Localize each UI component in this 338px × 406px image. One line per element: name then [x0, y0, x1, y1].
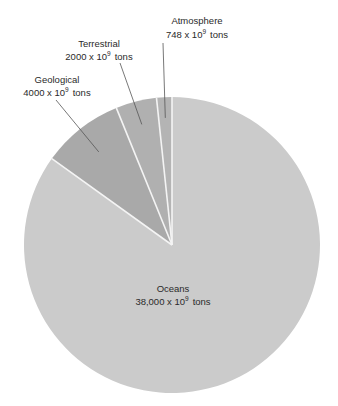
- label-atmosphere: Atmosphere 748 x 109tons: [166, 15, 228, 40]
- label-terrestrial-name: Terrestrial: [78, 38, 120, 49]
- label-geological-value: 4000 x 109tons: [23, 86, 91, 98]
- label-oceans-value: 38,000 x 109tons: [135, 295, 210, 307]
- label-geological: Geological 4000 x 109tons: [23, 74, 91, 98]
- label-terrestrial: Terrestrial 2000 x 109tons: [65, 38, 133, 62]
- label-terrestrial-value: 2000 x 109tons: [65, 50, 133, 62]
- label-geological-name: Geological: [35, 74, 80, 85]
- label-atmosphere-value: 748 x 109tons: [166, 28, 228, 40]
- label-atmosphere-name: Atmosphere: [171, 15, 222, 26]
- pie-chart: Atmosphere 748 x 109tons Terrestrial 200…: [0, 0, 338, 406]
- label-oceans-name: Oceans: [157, 283, 190, 294]
